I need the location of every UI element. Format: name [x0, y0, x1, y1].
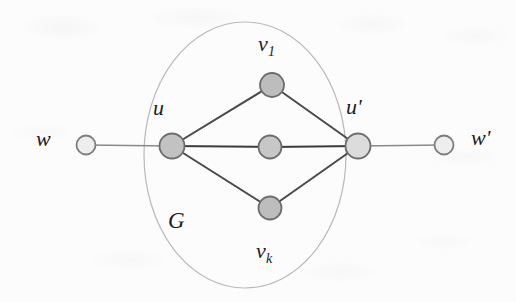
label-region-G: G — [168, 209, 185, 232]
label-vk-base: v — [256, 238, 266, 263]
label-w-prime: w' — [471, 127, 490, 149]
label-u-text: u — [153, 95, 164, 120]
label-w-prime-base: w — [471, 125, 486, 150]
vertex-v-middle — [259, 136, 282, 159]
label-vk: vk — [256, 240, 272, 265]
label-u-prime: u' — [346, 96, 362, 118]
label-u-prime-base: u — [346, 94, 357, 119]
label-v1: v1 — [258, 33, 275, 58]
vertex-w — [77, 136, 96, 155]
vertex-u — [160, 134, 185, 159]
label-w: w — [36, 128, 51, 150]
label-u: u — [153, 97, 164, 119]
label-vk-subscript: k — [266, 250, 273, 266]
vertex-w-prime — [435, 136, 454, 155]
label-region-G-text: G — [168, 208, 185, 233]
label-w-text: w — [36, 126, 51, 151]
graph-figure: w u v1 vk u' w' G — [0, 0, 516, 302]
label-w-prime-mark: ' — [486, 125, 491, 150]
vertex-v1 — [260, 73, 284, 97]
edge-u-v1 — [172, 85, 272, 146]
label-u-prime-mark: ' — [357, 94, 362, 119]
label-v1-base: v — [258, 31, 268, 56]
vertex-u-prime — [346, 134, 371, 159]
label-v1-subscript: 1 — [268, 43, 275, 59]
edge-u-vk — [172, 146, 270, 208]
vertex-vk — [259, 197, 282, 220]
edge-u-vmid — [172, 146, 270, 147]
